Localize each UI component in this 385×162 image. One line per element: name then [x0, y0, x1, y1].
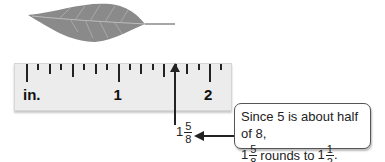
- ruler: in.12: [14, 63, 232, 111]
- callout-mixed-num: 5: [249, 143, 257, 156]
- marker-whole: 1: [176, 124, 183, 139]
- callout-result-den: 2: [327, 156, 333, 162]
- unit-label: in.: [23, 86, 41, 103]
- ruler-tick: [49, 64, 51, 74]
- ruler-tick: [198, 64, 200, 70]
- ruler-label-1: 1: [114, 86, 122, 103]
- callout-mixed-whole: 1: [241, 147, 248, 162]
- ruler-label-2: 2: [204, 86, 212, 103]
- measurement-arrow: [174, 67, 176, 125]
- callout-result-num: 1: [326, 143, 334, 156]
- ruler-tick: [186, 64, 188, 74]
- ruler-tick: [152, 64, 154, 70]
- marker-value: 158: [176, 120, 192, 145]
- ruler-tick: [129, 64, 131, 70]
- callout-line2: 158 rounds to 112.: [241, 143, 364, 162]
- ruler-tick: [95, 64, 97, 74]
- ruler-tick: [83, 64, 85, 70]
- marker-numerator: 5: [184, 120, 192, 133]
- callout-mixed-den: 8: [250, 156, 256, 162]
- ruler-tick: [72, 64, 74, 77]
- ruler-tick: [118, 64, 120, 82]
- leaf-image: [0, 0, 200, 50]
- callout-end: .: [334, 147, 338, 162]
- callout-result-whole: 1: [318, 147, 325, 162]
- ruler-tick: [26, 64, 28, 82]
- marker-denominator: 8: [185, 133, 191, 145]
- ruler-tick: [106, 64, 108, 70]
- ruler-tick: [140, 64, 142, 74]
- arrow-up-icon: [170, 63, 180, 73]
- ruler-tick: [163, 64, 165, 77]
- ruler-tick: [209, 64, 211, 82]
- callout-middle-text: rounds to: [260, 147, 314, 162]
- arrow-left-icon: [194, 130, 238, 142]
- ruler-tick: [220, 64, 222, 70]
- callout-line1: Since 5 is about half of 8,: [241, 108, 364, 142]
- ruler-tick: [37, 64, 39, 70]
- ruler-tick: [60, 64, 62, 70]
- callout-box: Since 5 is about half of 8, 158 rounds t…: [234, 103, 371, 149]
